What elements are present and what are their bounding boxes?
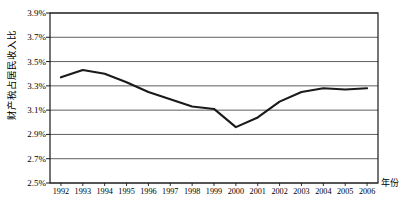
y-tick-label: 2.9% bbox=[12, 129, 46, 139]
y-axis-tick-labels: 3.9% 3.7% 3.5% 3.3% 3.1% 2.9% 2.7% 2.5% bbox=[8, 0, 46, 207]
x-tick-label: 1996 bbox=[140, 187, 156, 196]
x-tick-label: 2004 bbox=[315, 187, 331, 196]
x-tick-label: 1999 bbox=[206, 187, 222, 196]
x-tick-label: 2005 bbox=[337, 187, 353, 196]
x-tick-label: 1992 bbox=[53, 187, 69, 196]
x-tick-label: 1995 bbox=[118, 187, 134, 196]
y-tick-label: 2.7% bbox=[12, 154, 46, 164]
x-tick-label: 1998 bbox=[184, 187, 200, 196]
x-tick-label: 2001 bbox=[250, 187, 266, 196]
x-tick-label: 2003 bbox=[293, 187, 309, 196]
y-tick-label: 3.1% bbox=[12, 105, 46, 115]
y-tick-label: 3.5% bbox=[12, 57, 46, 67]
y-tick-label: 3.3% bbox=[12, 81, 46, 91]
x-tick-label: 1994 bbox=[96, 187, 112, 196]
x-tick-label: 2000 bbox=[228, 187, 244, 196]
plot-area bbox=[0, 0, 410, 207]
x-tick-label: 1993 bbox=[75, 187, 91, 196]
x-tick-label: 2002 bbox=[271, 187, 287, 196]
x-axis-title: 年份 bbox=[381, 176, 399, 189]
x-tick-label: 1997 bbox=[162, 187, 178, 196]
chart-container: 财产税占居民收入比 3.9% 3.7% 3.5% 3.3% 3.1% 2.9% … bbox=[0, 0, 410, 207]
plot-background bbox=[50, 13, 378, 183]
y-tick-label: 3.9% bbox=[12, 8, 46, 18]
x-tick-label: 2006 bbox=[359, 187, 375, 196]
y-tick-label: 2.5% bbox=[12, 178, 46, 188]
y-tick-label: 3.7% bbox=[12, 32, 46, 42]
